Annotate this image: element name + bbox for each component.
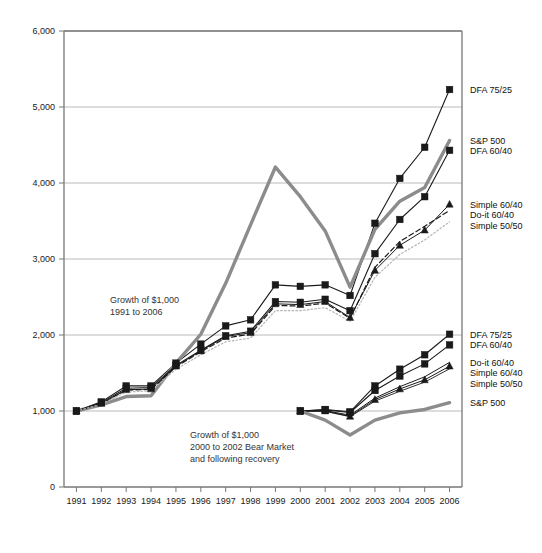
x-tick-label-2004: 2004 <box>390 496 410 506</box>
marker-simple-60-40-2005 <box>421 376 428 383</box>
series-line-s-p-500-1991-2006 <box>76 140 449 411</box>
x-tick-label-1996: 1996 <box>191 496 211 506</box>
data-series-lines <box>76 90 449 435</box>
legend-label-top-s-p-500: S&P 500 <box>470 136 505 146</box>
legend-label-top-dfa-75-25: DFA 75/25 <box>470 85 512 95</box>
legend-label-bottom-simple-60-40: Simple 60/40 <box>470 368 523 378</box>
legend-label-bottom-dfa-75-25: DFA 75/25 <box>470 330 512 340</box>
marker-dfa-75-25-2006 <box>446 331 453 338</box>
x-tick-label-1995: 1995 <box>166 496 186 506</box>
x-tick-label-2003: 2003 <box>365 496 385 506</box>
x-tick-label-1994: 1994 <box>141 496 161 506</box>
legend-label-top-simple-50-50: Simple 50/50 <box>470 221 523 231</box>
marker-dfa-60-40-2006 <box>446 147 453 154</box>
marker-dfa-75-25-2003 <box>372 220 379 227</box>
x-tick-label-1999: 1999 <box>265 496 285 506</box>
x-tick-label-2000: 2000 <box>290 496 310 506</box>
marker-dfa-75-25-1997 <box>222 323 229 330</box>
marker-dfa-75-25-1996 <box>198 341 205 348</box>
y-tick-label-4000: 4,000 <box>32 178 55 188</box>
legend-labels: DFA 75/25S&P 500DFA 60/40Simple 60/40Do-… <box>470 85 523 408</box>
series-line-dfa-75-25-1991-2006 <box>76 90 449 411</box>
y-tick-label-0: 0 <box>50 482 55 492</box>
y-axis-tick-labels: 01,0002,0003,0004,0005,0006,000 <box>32 26 64 492</box>
growth-bear-market-annotation-line-1: Growth of $1,000 <box>190 430 259 440</box>
growth-of-1000-line-chart: 01,0002,0003,0004,0005,0006,000 19911992… <box>0 0 542 553</box>
marker-dfa-75-25-2005 <box>421 351 428 358</box>
x-tick-label-2006: 2006 <box>440 496 460 506</box>
marker-dfa-60-40-2003 <box>372 250 379 257</box>
legend-label-bottom-dfa-60-40: DFA 60/40 <box>470 340 512 350</box>
marker-dfa-75-25-2002 <box>347 292 354 299</box>
marker-dfa-75-25-2000 <box>297 283 304 290</box>
marker-dfa-75-25-2005 <box>421 144 428 151</box>
marker-dfa-75-25-2004 <box>397 366 404 373</box>
marker-dfa-60-40-2004 <box>397 373 404 380</box>
growth-bear-market-annotation-line-3: and following recovery <box>190 454 280 464</box>
legend-label-top-dfa-60-40: DFA 60/40 <box>470 146 512 156</box>
chart-canvas: 01,0002,0003,0004,0005,0006,000 19911992… <box>0 0 542 553</box>
marker-dfa-60-40-2006 <box>446 342 453 349</box>
legend-label-bottom-s-p-500: S&P 500 <box>470 398 505 408</box>
marker-dfa-75-25-1998 <box>247 317 254 324</box>
y-tick-label-2000: 2,000 <box>32 330 55 340</box>
marker-simple-60-40-2006 <box>446 200 453 207</box>
x-tick-label-2001: 2001 <box>315 496 335 506</box>
marker-dfa-60-40-2005 <box>421 361 428 368</box>
x-tick-label-1992: 1992 <box>91 496 111 506</box>
growth-1991-2006-annotation-line-2: 1991 to 2006 <box>110 307 163 317</box>
x-tick-label-1991: 1991 <box>66 496 86 506</box>
marker-dfa-75-25-2006 <box>446 86 453 93</box>
y-tick-label-1000: 1,000 <box>32 406 55 416</box>
legend-label-top-simple-60-40: Simple 60/40 <box>470 200 523 210</box>
marker-dfa-60-40-2004 <box>397 216 404 223</box>
x-axis-tick-labels: 1991199219931994199519961997199819992000… <box>66 487 459 506</box>
y-tick-label-5000: 5,000 <box>32 102 55 112</box>
growth-1991-2006-annotation-line-1: Growth of $1,000 <box>110 295 179 305</box>
y-tick-label-3000: 3,000 <box>32 254 55 264</box>
marker-dfa-75-25-2001 <box>322 282 329 289</box>
legend-label-bottom-simple-50-50: Simple 50/50 <box>470 379 523 389</box>
x-tick-label-1998: 1998 <box>241 496 261 506</box>
x-tick-label-1997: 1997 <box>216 496 236 506</box>
x-tick-label-1993: 1993 <box>116 496 136 506</box>
x-tick-label-2002: 2002 <box>340 496 360 506</box>
x-tick-label-2005: 2005 <box>415 496 435 506</box>
marker-dfa-60-40-2005 <box>421 193 428 200</box>
marker-dfa-75-25-1999 <box>272 282 279 289</box>
legend-label-top-do-it-60-40: Do-it 60/40 <box>470 210 514 220</box>
marker-dfa-60-40-2002 <box>347 307 354 314</box>
y-tick-label-6000: 6,000 <box>32 26 55 36</box>
data-point-markers <box>73 86 453 419</box>
legend-label-bottom-do-it-60-40: Do-it 60/40 <box>470 358 514 368</box>
growth-bear-market-annotation-line-2: 2000 to 2002 Bear Market <box>190 442 295 452</box>
marker-dfa-60-40-2003 <box>372 387 379 394</box>
marker-dfa-75-25-2004 <box>397 175 404 182</box>
